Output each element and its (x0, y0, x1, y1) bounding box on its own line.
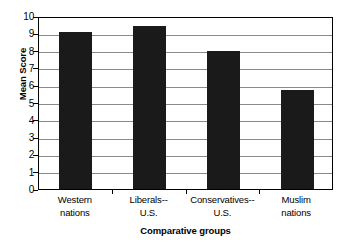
y-axis-tick-mark (33, 138, 38, 139)
y-axis-tick-label: 3 (18, 132, 34, 144)
y-axis-tick-label: 8 (18, 46, 34, 58)
y-axis-tick-mark (33, 172, 38, 173)
bar (59, 32, 92, 189)
y-axis-tick-label: 1 (18, 167, 34, 179)
x-axis-tick-mark (186, 190, 187, 194)
y-axis-tick-mark (33, 34, 38, 35)
x-axis-title: Comparative groups (38, 225, 333, 236)
x-axis-tick-labels: WesternnationsLiberals--U.S.Conservative… (38, 194, 333, 224)
y-axis-tick-label: 9 (18, 28, 34, 40)
bar-chart-figure: Mean Score 109876543210 WesternnationsLi… (0, 0, 342, 247)
x-axis-tick-mark (259, 190, 260, 194)
y-axis-tick-labels: 109876543210 (18, 11, 34, 195)
bar (281, 90, 314, 189)
bar (133, 26, 166, 189)
y-axis-tick-mark (33, 120, 38, 121)
y-axis-tick-label: 5 (18, 98, 34, 110)
y-axis-tick-label: 7 (18, 63, 34, 75)
y-axis-tick-mark (33, 17, 38, 18)
y-axis-tick-label: 6 (18, 80, 34, 92)
y-axis-tick-label: 2 (18, 149, 34, 161)
x-axis-tick-mark (112, 190, 113, 194)
y-axis-tick-mark (33, 155, 38, 156)
x-axis-tick-label: Muslimnations (253, 194, 339, 219)
plot-area (38, 17, 333, 190)
y-axis-tick-label: 10 (18, 11, 34, 23)
y-axis-tick-mark (33, 68, 38, 69)
y-axis-tick-mark (33, 51, 38, 52)
y-axis-tick-label: 4 (18, 115, 34, 127)
y-axis-tick-mark (33, 103, 38, 104)
y-axis-tick-mark (33, 86, 38, 87)
bar (207, 51, 240, 189)
x-axis-tick-label-line2: nations (253, 207, 339, 220)
y-axis-tick-mark (33, 190, 38, 191)
